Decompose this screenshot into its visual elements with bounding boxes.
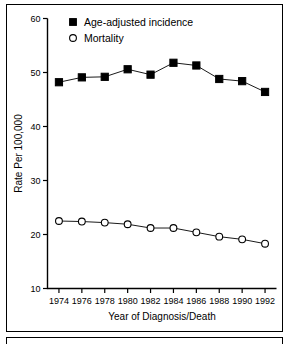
x-axis-tick-label: 1992 <box>255 296 275 306</box>
x-axis-tick-label: 1986 <box>186 296 206 306</box>
x-axis-tick-label: 1988 <box>209 296 229 306</box>
line-chart: 1020304050601974197619781980198219841986… <box>0 0 289 344</box>
y-axis-tick-label: 50 <box>30 68 40 78</box>
chart-axes <box>48 19 277 289</box>
y-axis-tick-label: 60 <box>30 14 40 24</box>
data-point-mortality <box>216 233 223 240</box>
data-point-mortality <box>124 221 131 228</box>
data-point-mortality <box>170 225 177 232</box>
data-point-incidence <box>261 88 268 95</box>
data-point-incidence <box>193 62 200 69</box>
data-point-incidence <box>147 71 154 78</box>
y-axis-tick-label: 10 <box>30 284 40 294</box>
y-axis-tick-label: 30 <box>30 176 40 186</box>
data-point-incidence <box>101 73 108 80</box>
data-point-incidence <box>78 74 85 81</box>
y-axis-tick-label: 20 <box>30 230 40 240</box>
data-point-mortality <box>193 229 200 236</box>
data-point-incidence <box>124 66 131 73</box>
x-axis-tick-label: 1984 <box>163 296 183 306</box>
x-axis-tick-label: 1982 <box>141 296 161 306</box>
legend-label-incidence: Age-adjusted incidence <box>84 16 193 28</box>
data-point-mortality <box>56 218 63 225</box>
data-point-incidence <box>170 59 177 66</box>
data-point-incidence <box>55 79 62 86</box>
data-point-mortality <box>239 236 246 243</box>
y-axis-title: Rate Per 100,000 <box>13 114 24 193</box>
legend-label-mortality: Mortality <box>84 32 124 44</box>
x-axis-tick-label: 1980 <box>118 296 138 306</box>
data-point-mortality <box>262 240 269 247</box>
series-line-0 <box>59 63 265 92</box>
data-point-mortality <box>147 225 154 232</box>
x-axis-tick-label: 1974 <box>49 296 69 306</box>
x-axis-tick-label: 1990 <box>232 296 252 306</box>
legend-marker-mortality <box>70 35 77 42</box>
data-point-mortality <box>78 218 85 225</box>
data-point-mortality <box>101 219 108 226</box>
data-point-incidence <box>216 75 223 82</box>
y-axis-tick-label: 40 <box>30 122 40 132</box>
x-axis-title: Year of Diagnosis/Death <box>108 311 215 322</box>
x-axis-tick-label: 1976 <box>72 296 92 306</box>
x-axis-tick-label: 1978 <box>95 296 115 306</box>
figure-container: 1020304050601974197619781980198219841986… <box>0 0 289 344</box>
data-point-incidence <box>239 78 246 85</box>
legend-marker-incidence <box>70 19 77 26</box>
series-line-1 <box>59 221 265 244</box>
